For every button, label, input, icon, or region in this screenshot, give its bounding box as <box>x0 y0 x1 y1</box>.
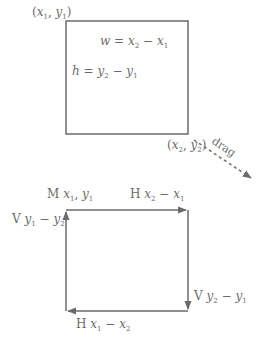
width-formula: w = x2 − x1 <box>100 34 168 50</box>
move-command-label: M x1, y1 <box>47 187 93 203</box>
rect-path-diagram: (x1, y1) w = x2 − x1 h = y2 − y1 (x2, y2… <box>0 0 260 346</box>
drag-label: drag <box>209 135 238 160</box>
h-top-command-label: H x2 − x1 <box>130 187 184 203</box>
bottom-right-corner-label: (x2, y2) <box>167 138 207 154</box>
top-left-corner-label: (x1, y1) <box>32 5 72 21</box>
v-left-command-label: V y1 − y2 <box>11 212 65 228</box>
height-formula: h = y2 − y1 <box>72 64 138 80</box>
h-bottom-command-label: H x1 − x2 <box>76 317 130 333</box>
v-right-command-label: V y2 − y1 <box>193 289 247 305</box>
